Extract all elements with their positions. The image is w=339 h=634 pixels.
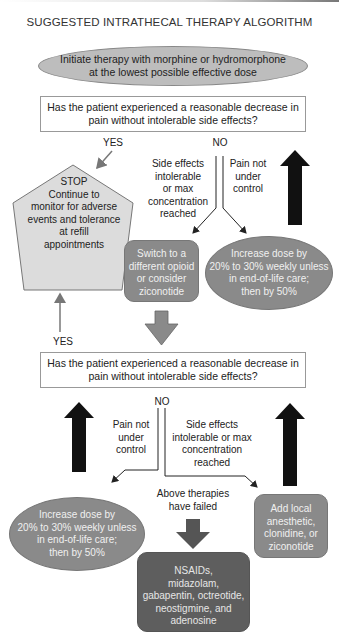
question1-line-1: Has the patient experienced a reasonable… — [41, 101, 305, 114]
stop-heading: STOP — [14, 176, 134, 189]
yes-label-2: YES — [48, 336, 78, 349]
box-line: anesthetic, — [255, 516, 327, 529]
label-line: Pain not — [108, 419, 154, 432]
label-line: Above therapies — [150, 488, 236, 501]
box-line: midazolam, — [138, 578, 249, 591]
box-line: Add local — [255, 503, 327, 516]
dark-down-arrow — [176, 519, 210, 549]
box-line: ziconotide — [255, 541, 327, 554]
gray-down-arrow — [145, 311, 178, 345]
box-line: NSAIDs, — [138, 565, 249, 578]
ellipse-line: in end-of-life care; — [10, 534, 144, 547]
label-line: control — [108, 444, 154, 457]
label-line: Side effects — [168, 419, 256, 432]
thick-up-arrow-2 — [64, 402, 94, 472]
ellipse-line: 20% to 30% weekly unless — [10, 522, 144, 535]
stop-line: at refill — [14, 226, 134, 239]
final-options-box: NSAIDs, midazolam, gabapentin, octreotid… — [137, 552, 250, 632]
no-label-1: NO — [208, 137, 232, 150]
stop-line: events and tolerance — [14, 214, 134, 227]
increase-dose-ellipse-1: Increase dose by 20% to 30% weekly unles… — [205, 236, 333, 310]
box-line: neostigmine, and — [138, 603, 249, 616]
box-line: Switch to a — [125, 248, 198, 261]
no-label-2: NO — [150, 396, 174, 409]
start-oval: Initiate therapy with morphine or hydrom… — [38, 46, 308, 86]
ellipse-line: then by 50% — [10, 547, 144, 560]
pain-not-controlled-label-2: Pain not under control — [108, 419, 154, 457]
pain-not-controlled-label-1: Pain not under control — [225, 158, 271, 196]
box-line: clonidine, or — [255, 528, 327, 541]
label-line: concentration — [168, 444, 256, 457]
yes-label-1: YES — [98, 137, 128, 150]
label-line: have failed — [150, 501, 236, 514]
ellipse-line: then by 50% — [206, 286, 332, 299]
label-line: under — [225, 171, 271, 184]
box-line: ziconotide — [125, 286, 198, 299]
start-line-2: at the lowest possible effective dose — [39, 66, 307, 79]
yes-arrow-1 — [97, 151, 112, 168]
question2-line-1: Has the patient experienced a reasonable… — [41, 357, 305, 370]
question-box-2: Has the patient experienced a reasonable… — [40, 352, 306, 388]
box-line: adenosine — [138, 615, 249, 628]
label-line: or max — [145, 183, 211, 196]
label-line: intolerable — [145, 171, 211, 184]
label-line: intolerable or max — [168, 432, 256, 445]
label-line: control — [225, 183, 271, 196]
question2-line-2: pain without intolerable side effects? — [41, 370, 305, 383]
label-line: reached — [145, 208, 211, 221]
stop-line: appointments — [14, 239, 134, 252]
side-effects-label-2: Side effects intolerable or max concentr… — [168, 419, 256, 469]
label-line: concentration — [145, 196, 211, 209]
box-line: or consider — [125, 273, 198, 286]
ellipse-line: in end-of-life care; — [206, 273, 332, 286]
thick-up-arrow-1 — [280, 150, 310, 225]
label-line: Pain not — [225, 158, 271, 171]
thick-up-arrow-3 — [275, 403, 305, 486]
ellipse-line: 20% to 30% weekly unless — [206, 261, 332, 274]
stop-text: STOP Continue to monitor for adverse eve… — [14, 176, 134, 252]
start-line-1: Initiate therapy with morphine or hydrom… — [39, 53, 307, 66]
add-local-anesthetic-box: Add local anesthetic, clonidine, or zico… — [254, 494, 328, 558]
stop-line: Continue to — [14, 189, 134, 202]
label-line: reached — [168, 457, 256, 470]
switch-opioid-box: Switch to a different opioid or consider… — [124, 240, 199, 302]
side-effects-label-1: Side effects intolerable or max concentr… — [145, 158, 211, 221]
label-line: Side effects — [145, 158, 211, 171]
stop-line: monitor for adverse — [14, 201, 134, 214]
label-line: under — [108, 432, 154, 445]
therapies-failed-label: Above therapies have failed — [150, 488, 236, 513]
ellipse-line: Increase dose by — [10, 509, 144, 522]
ellipse-line: Increase dose by — [206, 248, 332, 261]
question1-line-2: pain without intolerable side effects? — [41, 114, 305, 127]
increase-dose-ellipse-2: Increase dose by 20% to 30% weekly unles… — [9, 497, 145, 571]
box-line: different opioid — [125, 261, 198, 274]
question-box-1: Has the patient experienced a reasonable… — [40, 96, 306, 132]
box-line: gabapentin, octreotide, — [138, 590, 249, 603]
